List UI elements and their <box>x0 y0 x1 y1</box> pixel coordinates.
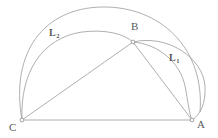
vertex-marker-B <box>131 40 135 44</box>
vertex-label-A: A <box>197 119 205 130</box>
geometry-canvas <box>0 0 218 138</box>
vertex-label-C: C <box>9 122 17 133</box>
region-label-L1-letter: L <box>169 52 176 63</box>
region-label-L1-subscript: 1 <box>176 57 179 64</box>
segment-BA <box>133 42 192 120</box>
region-label-L2: L2 <box>49 28 59 38</box>
region-label-L1: L1 <box>169 53 179 63</box>
vertex-marker-C <box>20 118 24 122</box>
geometry-figure: C A B L2 L1 <box>0 0 218 138</box>
vertex-label-B: B <box>131 21 139 32</box>
vertex-marker-A <box>190 118 194 122</box>
segment-CB <box>22 42 133 120</box>
mid-arc-CB-path <box>22 31 133 120</box>
region-label-L2-letter: L <box>49 27 56 38</box>
region-label-L2-subscript: 2 <box>56 32 59 39</box>
